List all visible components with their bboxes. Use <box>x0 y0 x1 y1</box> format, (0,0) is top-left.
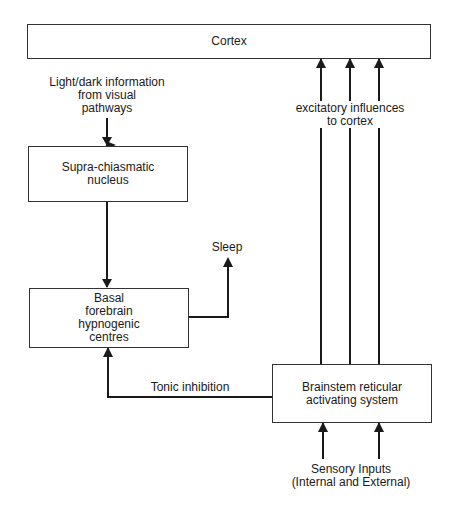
arrowhead-up-cortex-3 <box>374 58 384 68</box>
arrowhead-up-cortex-1 <box>316 58 326 68</box>
node-supra-chiasmatic-nucleus: Supra-chiasmatic nucleus <box>28 146 188 202</box>
arrowhead-up-basal <box>103 347 113 357</box>
arrow-basal-to-sleep <box>188 259 228 317</box>
node-cortex: Cortex <box>27 24 431 59</box>
label-excitatory: excitatory influences to cortex <box>285 102 415 128</box>
node-brainstem-reticular: Brainstem reticular activating system <box>272 364 432 423</box>
arrowhead-up-cortex-2 <box>345 58 355 68</box>
arrowhead-down-basal <box>102 279 112 288</box>
label-sensory-inputs: Sensory Inputs (Internal and External) <box>276 463 426 489</box>
label-light-dark: Light/dark information from visual pathw… <box>37 76 177 115</box>
arrowhead-up-brainstem-2 <box>374 422 384 432</box>
arrowhead-up-sleep <box>223 257 233 267</box>
label-sleep: Sleep <box>206 241 248 254</box>
node-basal-forebrain: Basal forebrain hypnogenic centres <box>29 288 189 348</box>
arrowhead-up-brainstem-1 <box>318 422 328 432</box>
arrowhead-down-scn <box>102 137 112 146</box>
node-cortex-label: Cortex <box>211 35 246 48</box>
label-tonic-inhibition: Tonic inhibition <box>140 381 240 394</box>
